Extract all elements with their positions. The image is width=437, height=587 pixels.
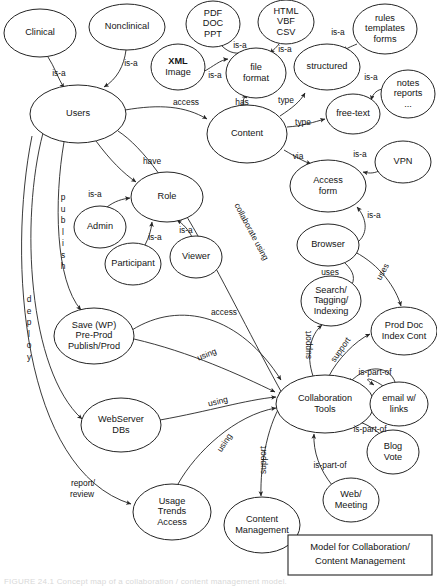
node-web-meeting[interactable]: Web/Meeting xyxy=(323,478,379,522)
node-save-wp[interactable]: Save (WP)Pre-ProdPublish/Prod xyxy=(54,308,134,364)
node-label-participant: Participant xyxy=(111,258,155,268)
node-blog-vote[interactable]: BlogVote xyxy=(367,430,419,474)
node-label-pdf-doc-ppt: PDF xyxy=(204,8,223,18)
node-clinical[interactable]: Clinical xyxy=(4,9,76,57)
node-webserver-dbs[interactable]: WebServerDBs xyxy=(81,398,161,452)
edge-label-lbl-type-structured: type xyxy=(278,95,294,105)
node-structured[interactable]: structured xyxy=(294,44,360,90)
edge-label-lbl-ispartof-web: is-part-of xyxy=(313,460,347,470)
edge-label-lbl-has: has xyxy=(235,97,249,107)
edge-label-lbl-browser-isa: is-a xyxy=(367,210,381,220)
node-label-prod-doc-index: Prod Doc xyxy=(385,320,424,330)
vertical-letter: h xyxy=(61,261,66,271)
edge-label-lbl-vpn-isa: is-a xyxy=(353,149,367,159)
edge-label-lbl-access: access xyxy=(173,97,199,107)
node-email-links[interactable]: email w/links xyxy=(370,382,428,426)
node-browser[interactable]: Browser xyxy=(297,224,359,266)
node-label-blog-vote: Vote xyxy=(384,452,402,462)
node-label-free-text: free-text xyxy=(336,108,370,118)
node-access-form[interactable]: Accessform xyxy=(290,160,366,212)
edge-admin-role xyxy=(107,198,130,207)
edge-label-lbl-admin-isa: is-a xyxy=(88,189,102,199)
node-vpn[interactable]: VPN xyxy=(375,141,431,183)
node-label-nonclinical: Nonclinical xyxy=(105,21,149,31)
node-label-blog-vote: Blog xyxy=(384,441,402,451)
edge-label-lbl-report-review-1: report/ xyxy=(71,478,96,488)
node-notes-reports[interactable]: notesreports... xyxy=(381,70,435,118)
node-label-rules-templates: forms xyxy=(374,34,397,44)
diagram-canvas: ClinicalNonclinicalPDFDOCPPTHTMLVBFCSVru… xyxy=(0,0,437,587)
edge-label-lbl-using-savewp: using xyxy=(196,346,219,363)
node-label-web-meeting: Web/ xyxy=(340,489,362,499)
node-label-web-meeting: Meeting xyxy=(335,500,368,510)
node-label-content-mgmt: Management xyxy=(235,525,289,535)
node-rules-templates[interactable]: rulestemplatesforms xyxy=(353,4,417,54)
edge-label-lbl-support-cm: support xyxy=(258,445,268,474)
node-label-email-links: links xyxy=(390,404,409,414)
node-label-search-tagging: Search/ xyxy=(315,285,347,295)
node-label-access-form: Access xyxy=(313,175,343,185)
node-label-notes-reports: notes xyxy=(397,78,420,88)
vertical-label-vlbl-publish: publish xyxy=(61,192,66,271)
node-pdf-doc-ppt[interactable]: PDFDOCPPT xyxy=(186,1,240,47)
edge-users-content xyxy=(125,107,207,119)
node-admin[interactable]: Admin xyxy=(74,206,126,248)
node-label-usage-trends: Usage xyxy=(159,496,186,506)
figure-caption: FIGURE 24.1 Concept map of a collaborati… xyxy=(4,577,287,586)
node-label-pdf-doc-ppt: DOC xyxy=(203,18,224,28)
vertical-letter: d xyxy=(27,294,32,304)
vertical-letter: o xyxy=(27,340,32,350)
node-label-webserver-dbs: WebServer xyxy=(98,414,144,424)
node-label-html-vbf-csv: HTML xyxy=(273,6,298,16)
caption-line-1: Model for Collaboration/ xyxy=(310,541,410,552)
node-html-vbf-csv[interactable]: HTMLVBFCSV xyxy=(258,0,314,44)
node-usage-trends[interactable]: UsageTrendsAccess xyxy=(133,484,211,540)
edge-label-lbl-collab-using: collaborate using xyxy=(232,201,271,262)
node-nonclinical[interactable]: Nonclinical xyxy=(89,4,165,50)
node-label-vpn: VPN xyxy=(394,156,413,166)
node-label-content-mgmt: Content xyxy=(246,514,279,524)
node-label-collaboration: Tools xyxy=(314,404,336,414)
node-role[interactable]: Role xyxy=(131,172,203,222)
edge-label-lbl-type-freetext: type xyxy=(295,117,311,127)
edge-label-lbl-access2: access xyxy=(211,307,237,317)
node-label-usage-trends: Access xyxy=(157,517,187,527)
edge-savewp-collaboration-using xyxy=(134,339,275,392)
node-label-rules-templates: templates xyxy=(365,23,405,33)
node-label-search-tagging: Tagging/ xyxy=(314,295,349,305)
node-participant[interactable]: Participant xyxy=(105,243,161,285)
node-xml-image[interactable]: XMLImage xyxy=(151,44,205,90)
node-label-html-vbf-csv: CSV xyxy=(277,27,297,37)
edge-label-lbl-ispartof-email: is-part-of xyxy=(358,367,392,377)
edge-vpn-accessform xyxy=(363,171,379,173)
edge-label-lbl-nonclinical-isa: is-a xyxy=(124,58,138,68)
edge-nonclinical-users xyxy=(104,50,126,87)
vertical-letter: p xyxy=(27,317,32,327)
edge-label-lbl-xml-isa: is-a xyxy=(208,70,222,80)
edge-label-lbl-have: have xyxy=(143,156,162,166)
node-label-notes-reports: ... xyxy=(404,99,412,109)
caption-box-group: Model for Collaboration/ Content Managem… xyxy=(288,535,432,575)
edge-label-lbl-pdf-isa: is-a xyxy=(233,40,247,50)
node-label-search-tagging: Indexing xyxy=(314,306,349,316)
node-prod-doc-index[interactable]: Prod DocIndex Cont xyxy=(371,307,437,355)
node-free-text[interactable]: free-text xyxy=(326,94,380,134)
node-label-access-form: form xyxy=(319,186,338,196)
node-users[interactable]: Users xyxy=(30,85,126,143)
node-label-browser: Browser xyxy=(311,239,345,249)
node-search-tagging[interactable]: Search/Tagging/Indexing xyxy=(301,276,361,326)
node-content[interactable]: Content xyxy=(207,105,287,163)
node-label-prod-doc-index: Index Cont xyxy=(382,331,427,341)
node-label-save-wp: Save (WP) xyxy=(72,320,116,330)
edge-email-collaboration xyxy=(368,379,383,386)
node-label-xml-image: Image xyxy=(165,67,191,77)
node-label-usage-trends: Trends xyxy=(158,506,187,516)
vertical-letter: e xyxy=(27,306,32,316)
concept-map-diagram: ClinicalNonclinicalPDFDOCPPTHTMLVBFCSVru… xyxy=(0,0,437,587)
node-viewer[interactable]: Viewer xyxy=(170,236,222,278)
node-file-format[interactable]: fileformat xyxy=(226,48,286,98)
node-label-clinical: Clinical xyxy=(25,27,55,37)
node-label-admin: Admin xyxy=(87,221,113,231)
edge-label-lbl-rules-isa: is-a xyxy=(331,27,345,37)
edge-label-lbl-support-search: support xyxy=(303,330,313,359)
